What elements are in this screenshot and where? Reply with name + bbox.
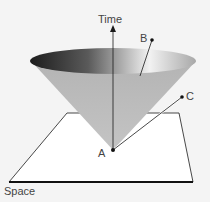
- point-b-label: B: [140, 32, 147, 44]
- time-label: Time: [98, 13, 122, 25]
- point-a-label: A: [98, 147, 106, 159]
- point-c-label: C: [186, 90, 194, 102]
- space-label: Space: [4, 185, 35, 197]
- point-a: [111, 148, 115, 152]
- diagram-canvas: Time B C A Space: [0, 0, 210, 202]
- point-c: [180, 95, 184, 99]
- point-b: [150, 38, 154, 42]
- light-cone-diagram: Time B C A Space: [0, 0, 210, 202]
- time-axis-arrow-icon: [110, 25, 116, 32]
